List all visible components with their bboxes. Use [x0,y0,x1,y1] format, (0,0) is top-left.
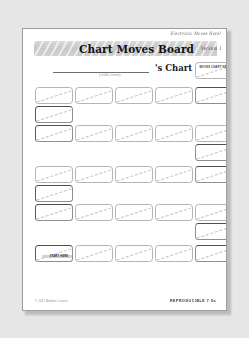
masthead-note: Electronic Moves Hotel [135,32,221,37]
card-r5c4[interactable] [195,166,227,183]
card-r5c1[interactable] [75,166,113,183]
card-r3c2[interactable] [115,125,153,142]
card-r9c0[interactable]: START HERE [35,245,73,262]
start-here-stamp: START HERE [42,255,73,258]
card-r7c4[interactable] [195,204,227,221]
footer-copyright: © 2011 Midwest Lewes [35,298,68,303]
card-r8c4[interactable] [195,223,227,240]
page-title: Chart Moves Board [79,43,194,55]
chart-heading-suffix: 's Chart [155,63,192,73]
card-r7c0[interactable] [35,204,73,221]
card-r1c2[interactable] [115,87,153,104]
worksheet-content: Electronic Moves Hotel Chart Moves Board… [23,29,226,310]
version-label: Version 1 [201,46,222,52]
card-r6c0[interactable] [35,185,73,202]
card-r1c3[interactable] [155,87,193,104]
card-r9c1[interactable] [75,245,113,262]
card-r7c1[interactable] [75,204,113,221]
card-r1c0[interactable] [35,87,73,104]
card-r9c3[interactable] [155,245,193,262]
card-r1c4[interactable] [195,87,227,104]
card-r3c3[interactable] [155,125,193,142]
card-r5c0[interactable] [35,166,73,183]
card-r3c0[interactable] [35,125,73,142]
card-r4c4[interactable] [195,144,227,161]
card-r7c2[interactable] [115,204,153,221]
name-field-row: (child's name) [35,62,175,78]
card-r5c3[interactable] [155,166,193,183]
card-r3c1[interactable] [75,125,113,142]
card-r5c2[interactable] [115,166,153,183]
card-r3c4[interactable] [195,125,227,142]
card-r1c1[interactable] [75,87,113,104]
card-r9c4[interactable] [195,245,227,262]
footer-reproducible-code: REPRODUCIBLE 7.5a [170,298,216,303]
card-r9c2[interactable] [115,245,153,262]
title-banner: Chart Moves Board Version 1 [34,41,217,56]
card-r2c0[interactable] [35,106,73,123]
legend-card[interactable]: MOVES CHART KEY [195,62,227,79]
card-r7c3[interactable] [155,204,193,221]
legend-card-label: MOVES CHART KEY [196,66,227,69]
name-field-caption: (child's name) [75,73,145,78]
worksheet-page: Electronic Moves Hotel Chart Moves Board… [22,28,227,311]
